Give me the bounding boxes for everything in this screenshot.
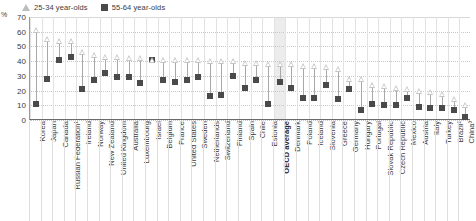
x-axis-tick (87, 121, 88, 221)
x-axis-label-iceland: Iceland (316, 121, 325, 146)
x-axis-label-finland: Finland (235, 121, 244, 146)
data-point-25-34 (346, 76, 352, 82)
data-point-55-64 (439, 105, 445, 111)
x-axis-tick (41, 121, 42, 221)
gridline-vertical (216, 17, 217, 119)
data-point-25-34 (311, 63, 317, 69)
x-axis-tick (145, 121, 146, 221)
data-point-55-64 (68, 54, 74, 60)
x-axis-tick (168, 121, 169, 221)
gridline-vertical (413, 17, 414, 119)
gridline-vertical (111, 17, 112, 119)
chart-legend: 25-34 year-olds 55-64 year-olds (22, 1, 165, 13)
data-point-25-34 (56, 38, 62, 44)
legend-label-25-34: 25-34 year-olds (34, 3, 88, 12)
x-axis-tick (203, 121, 204, 221)
data-point-55-64 (404, 95, 410, 101)
square-filled-icon (101, 4, 108, 11)
x-axis-label-portugal: Portugal (374, 121, 383, 149)
gridline-vertical (285, 17, 286, 119)
data-point-25-34 (416, 88, 422, 94)
y-axis-tick-label: 60 (4, 27, 26, 36)
gridline-vertical (100, 17, 101, 119)
x-axis-tick (64, 121, 65, 221)
data-point-55-64 (44, 76, 50, 82)
gridline-vertical (192, 17, 193, 119)
data-point-25-34 (91, 52, 97, 58)
legend-label-55-64: 55-64 year-olds (112, 3, 166, 12)
data-point-55-64 (91, 77, 97, 83)
data-point-25-34 (230, 58, 236, 64)
x-axis-label-slovak-republic: Slovak Republic (386, 121, 395, 176)
data-point-25-34 (184, 57, 190, 63)
gridline-vertical (320, 17, 321, 119)
x-axis-tick (319, 121, 320, 221)
data-point-25-34 (102, 54, 108, 60)
data-point-25-34 (33, 27, 39, 33)
data-point-55-64 (184, 77, 190, 83)
gridline-vertical (355, 17, 356, 119)
x-axis-label-slovenia: Slovenia (328, 121, 337, 150)
x-axis-label-mexico: Mexico (409, 121, 418, 145)
x-axis-tick (250, 121, 251, 221)
x-axis-label-austria: Austria (421, 121, 430, 145)
gridline-vertical (436, 17, 437, 119)
data-point-25-34 (253, 60, 259, 66)
data-point-55-64 (462, 114, 468, 120)
data-point-25-34 (404, 86, 410, 92)
data-point-55-64 (369, 101, 375, 107)
x-axis-label-norway: Norway (96, 121, 105, 147)
data-point-55-64 (56, 57, 62, 63)
connector-stem (314, 66, 315, 98)
gridline-vertical (65, 17, 66, 119)
x-axis-label-china: China³ (467, 121, 476, 143)
data-point-55-64 (311, 95, 317, 101)
data-point-55-64 (427, 105, 433, 111)
data-point-25-34 (369, 82, 375, 88)
gridline-vertical (459, 17, 460, 119)
x-axis-tick (180, 121, 181, 221)
gridline-vertical (262, 17, 263, 119)
x-axis-tick (226, 121, 227, 221)
gridline-vertical (181, 17, 182, 119)
x-axis-label-estonia: Estonia (270, 121, 279, 146)
data-point-55-64 (126, 74, 132, 80)
data-point-25-34 (218, 58, 224, 64)
y-axis-tick-label: 50 (4, 42, 26, 51)
x-axis-label-denmark: Denmark (293, 121, 302, 152)
y-axis-tick-label: 70 (4, 13, 26, 22)
x-axis-tick (215, 121, 216, 221)
data-point-25-34 (439, 91, 445, 97)
x-axis-label-switzerland: Switzerland (223, 121, 232, 160)
x-axis-label-ireland: Ireland (84, 121, 93, 144)
data-point-55-64 (253, 77, 259, 83)
data-point-25-34 (381, 83, 387, 89)
x-axis-tick (400, 121, 401, 221)
gridline-vertical (30, 17, 31, 119)
y-axis-tick-label: 0 (4, 116, 26, 125)
data-point-25-34 (393, 85, 399, 91)
data-point-25-34 (114, 54, 120, 60)
data-point-55-64 (358, 107, 364, 113)
data-point-55-64 (242, 85, 248, 91)
data-point-25-34 (242, 60, 248, 66)
data-point-25-34 (68, 38, 74, 44)
gridline-vertical (297, 17, 298, 119)
x-axis-label-canada: Canada (61, 121, 70, 148)
connector-stem (338, 69, 339, 100)
x-axis-label-germany: Germany (351, 121, 360, 152)
connector-stem (303, 66, 304, 98)
connector-stem (36, 30, 37, 104)
x-axis-label-australia: Australia (131, 121, 140, 151)
gridline-vertical (401, 17, 402, 119)
x-axis-labels: KoreaJapanCanadaRussian Federation¹Irela… (29, 121, 470, 221)
x-axis-tick (389, 121, 390, 221)
data-point-25-34 (207, 58, 213, 64)
gridline-vertical (204, 17, 205, 119)
y-axis-tick-label: 40 (4, 57, 26, 66)
data-point-55-64 (300, 95, 306, 101)
gridline-vertical (53, 17, 54, 119)
gridline-vertical (367, 17, 368, 119)
gridline-vertical (343, 17, 344, 119)
